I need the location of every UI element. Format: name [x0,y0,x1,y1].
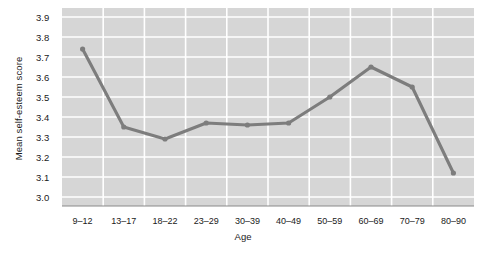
x-axis-tick-label: 18–22 [152,216,177,226]
y-axis-tick-label: 3.5 [36,92,62,103]
x-axis-tick-label: 70–79 [400,216,425,226]
y-axis-tick-label: 3.2 [36,152,62,163]
data-point [451,170,456,175]
x-axis-tick-label: 40–49 [276,216,301,226]
y-axis-tick-label: 3.9 [36,12,62,23]
data-point [368,64,373,69]
y-axis-tick-label: 3.7 [36,52,62,63]
x-axis-tick-label: 50–59 [317,216,342,226]
x-axis-title: Age [0,231,486,242]
data-point [245,122,250,127]
data-point [162,136,167,141]
x-axis-tick-label: 60–69 [358,216,383,226]
data-point [80,46,85,51]
y-axis-title: Mean self-esteem score [13,29,24,189]
data-point [204,120,209,125]
y-axis-tick-label: 3.1 [36,172,62,183]
chart-container: Mean self-esteem score 3.03.13.23.33.43.… [0,0,486,256]
x-axis-tick-label: 23–29 [194,216,219,226]
x-axis-tick-label: 13–17 [111,216,136,226]
y-axis-tick-label: 3.6 [36,72,62,83]
data-point [410,84,415,89]
y-axis-tick-label: 3.3 [36,132,62,143]
x-axis-tick-label: 9–12 [73,216,93,226]
y-axis-tick-label: 3.0 [36,192,62,203]
data-point [121,124,126,129]
data-point [327,94,332,99]
y-axis-tick-label: 3.8 [36,32,62,43]
x-axis-tick-label: 30–39 [235,216,260,226]
x-axis-tick-label: 80–90 [441,216,466,226]
y-axis-tick-label: 3.4 [36,112,62,123]
data-point [286,120,291,125]
